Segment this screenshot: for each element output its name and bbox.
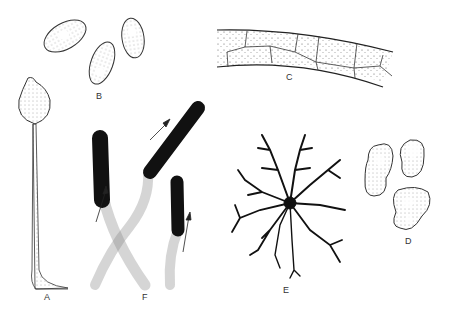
panel-e-dendritic-cell	[232, 135, 345, 278]
label-e: E	[283, 285, 289, 295]
figure-canvas	[0, 0, 453, 313]
panel-f-hyphae	[95, 108, 198, 285]
panel-b-spores	[39, 13, 147, 87]
label-f: F	[142, 292, 148, 302]
panel-a-sporangium	[19, 78, 68, 290]
label-d: D	[405, 236, 412, 246]
label-c: C	[286, 72, 293, 82]
panel-c-cell-band	[217, 30, 393, 87]
label-b: B	[96, 91, 102, 101]
label-a: A	[44, 292, 50, 302]
panel-d-cells	[365, 140, 430, 230]
